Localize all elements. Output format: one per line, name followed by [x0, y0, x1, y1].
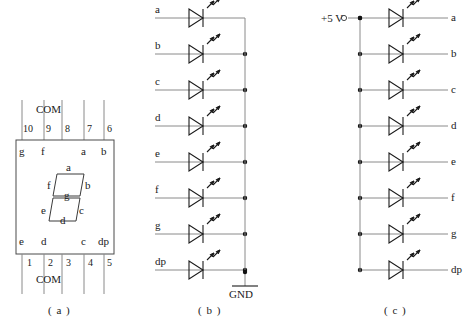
part-b-row-label-d: d [155, 112, 161, 123]
part-c-row-label-c: c [451, 84, 456, 95]
part-c-row-label-a: a [451, 12, 456, 23]
part-c-graphics [0, 0, 468, 330]
part-b-row-label-g: g [155, 220, 161, 231]
part-b-row-label-a: a [155, 4, 160, 15]
caption-part-c: ( c ) [384, 305, 407, 316]
part-c-supply-label: +5 V [321, 13, 343, 24]
part-c-row-label-d: d [451, 120, 457, 131]
figure-led-display-diagram: COM 10 9 8 7 6 g f a b a f b g e c d e d… [0, 0, 468, 330]
part-c-row-label-g: g [451, 228, 457, 239]
part-c-row-label-e: e [451, 156, 456, 167]
part-b-row-label-c: c [155, 76, 160, 87]
part-c-row-label-dp: dp [451, 264, 462, 275]
part-b-row-label-e: e [155, 148, 160, 159]
caption-part-b: ( b ) [198, 305, 221, 316]
part-c-row-label-f: f [451, 192, 455, 203]
part-b-ground-label: GND [229, 289, 253, 300]
part-c-row-label-b: b [451, 48, 457, 59]
caption-part-a: ( a ) [48, 305, 71, 316]
part-b-row-label-f: f [155, 184, 159, 195]
part-b-row-label-b: b [155, 40, 161, 51]
part-b-row-label-dp: dp [155, 256, 166, 267]
